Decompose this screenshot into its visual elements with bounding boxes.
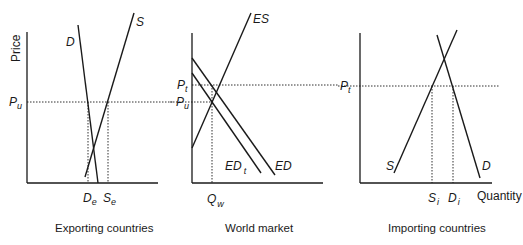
demand-label: D [482, 159, 491, 173]
supply-curve [394, 30, 457, 173]
trade-diagram: Price Pu D S De Se Exporting countries P… [0, 0, 523, 245]
x-axis-label: Quantity [477, 189, 522, 203]
excess-demand-curve [192, 58, 275, 175]
supply-label: S [386, 159, 394, 173]
excess-demand-label: ED [275, 159, 292, 173]
quantity-label-qw: Qw [207, 192, 224, 209]
y-axis-label: Price [9, 34, 23, 62]
panel-caption: Importing countries [388, 222, 486, 234]
quantity-label-di: Di [448, 191, 461, 207]
panel-importing: Pt S D Si Di Quantity Importing countrie… [338, 30, 522, 234]
quantity-label-si: Si [428, 191, 440, 207]
excess-supply-label: ES [253, 12, 269, 26]
quantity-label-de: De [83, 191, 97, 207]
excess-demand-tariff-label: EDt [225, 159, 247, 176]
demand-curve [437, 35, 480, 178]
panel-caption: Exporting countries [55, 222, 154, 234]
panel-world-market: Pt Pu ES ED EDt Qw World market [170, 12, 338, 234]
demand-label: D [66, 35, 75, 49]
panel-caption: World market [225, 222, 294, 234]
panel-exporting: Price Pu D S De Se Exporting countries [9, 13, 174, 234]
quantity-label-se: Se [103, 191, 116, 207]
price-label-pt: Pt [177, 78, 188, 94]
price-label-pu: Pu [176, 95, 189, 111]
supply-label: S [136, 15, 144, 29]
right-price-label-pt: Pt [340, 79, 351, 95]
price-label-pu: Pu [9, 95, 22, 111]
supply-curve [85, 13, 134, 177]
